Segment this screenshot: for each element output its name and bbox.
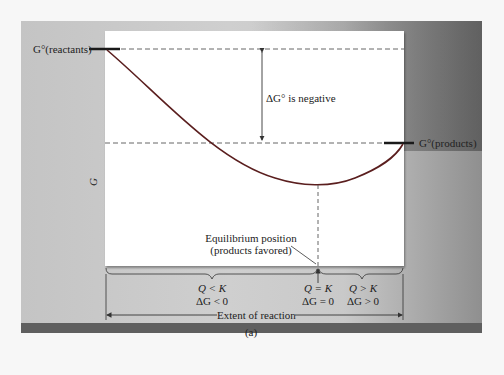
region-1-q: Q < K	[182, 282, 242, 294]
left-brace	[106, 268, 317, 279]
equilibrium-label-line2: (products favored)	[196, 244, 306, 256]
y-axis-label: G	[87, 178, 99, 186]
equilibrium-label-line1: Equilibrium position	[196, 232, 306, 244]
x-axis-label: Extent of reaction	[217, 309, 295, 321]
region-1-dg: ΔG < 0	[182, 295, 242, 307]
region-3-q: Q > K	[335, 282, 391, 294]
delta-g-standard-label: ΔG° is negative	[266, 92, 336, 104]
free-energy-curve	[107, 50, 403, 185]
figure-caption: (a)	[236, 326, 266, 338]
products-label: G°(products)	[419, 137, 477, 149]
right-brace	[319, 268, 403, 279]
reactants-label: G°(reactants)	[33, 43, 92, 55]
region-3-dg: ΔG > 0	[335, 295, 391, 307]
